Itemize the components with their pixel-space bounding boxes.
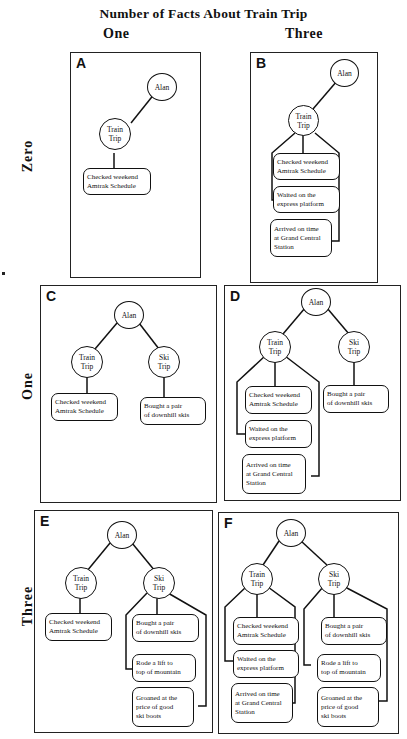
node-ski-trip: Ski Trip <box>318 563 350 595</box>
node-ski-fact-3: Groaned at the price of good ski boots <box>132 687 194 727</box>
column-label-three: Three <box>285 26 323 42</box>
row-label-zero: Zero <box>20 116 36 196</box>
panel-f: F Alan Train Trip Ski Trip Checked weeke… <box>218 512 399 734</box>
node-train-fact-1: Checked weekend Amtrak Schedule <box>45 613 112 641</box>
node-train-trip: Train Trip <box>99 118 131 150</box>
node-train-trip: Train Trip <box>241 563 273 595</box>
node-alan: Alan <box>107 521 137 549</box>
node-alan: Alan <box>147 73 177 101</box>
node-alan: Alan <box>301 288 331 316</box>
node-ski-trip: Ski Trip <box>148 346 180 378</box>
node-train-fact-1: Checked weekend Amtrak Schedule <box>245 386 312 414</box>
figure-title: Number of Facts About Train Trip <box>0 6 407 22</box>
node-ski-trip: Ski Trip <box>338 331 370 363</box>
node-ski-trip: Ski Trip <box>143 567 175 599</box>
node-train-trip: Train Trip <box>288 105 319 136</box>
stray-mark <box>2 272 5 275</box>
panel-e: E Alan Train Trip Ski Trip Checked weeke… <box>34 510 213 733</box>
node-train-trip: Train Trip <box>259 331 291 363</box>
node-ski-fact-3: Groaned at the price of good ski boots <box>317 687 379 727</box>
row-label-one: One <box>20 346 36 426</box>
node-train-fact-1: Checked weekend Amtrak Schedule <box>83 168 151 195</box>
node-train-fact-2: Waited on the express platform <box>273 186 340 213</box>
node-ski-fact-1: Bought a pair of downhill skis <box>321 617 387 645</box>
node-train-fact-3: Arrived on time at Grand Central Station <box>242 454 306 494</box>
node-alan: Alan <box>330 59 359 87</box>
node-ski-fact-1: Bought a pair of downhill skis <box>140 397 206 425</box>
node-train-fact-1: Checked weekend Amtrak Schedule <box>233 617 299 645</box>
panel-a: A Alan Train Trip Checked weekend Amtrak… <box>70 52 201 278</box>
node-train-trip: Train Trip <box>65 567 97 599</box>
panel-c: C Alan Train Trip Ski Trip Checked weeke… <box>40 285 217 503</box>
node-train-fact-1: Checked weekend Amtrak Schedule <box>51 393 118 421</box>
node-train-trip: Train Trip <box>71 346 103 378</box>
node-train-fact-1: Checked weekend Amtrak Schedule <box>273 153 340 180</box>
node-ski-fact-2: Rode a lift to top of mountain <box>317 654 381 682</box>
column-label-one: One <box>103 26 129 42</box>
node-alan: Alan <box>114 301 144 329</box>
node-ski-fact-1: Bought a pair of downhill skis <box>323 385 389 413</box>
node-train-fact-3: Arrived on time at Grand Central Station <box>231 683 293 723</box>
node-ski-fact-2: Rode a lift to top of mountain <box>132 654 196 682</box>
node-train-fact-3: Arrived on time at Grand Central Station <box>270 219 332 257</box>
panel-d: D Alan Train Trip Ski Trip Checked weeke… <box>224 285 401 501</box>
panel-b: B Alan Train Trip Checked weekend Amtrak… <box>250 52 378 283</box>
node-alan: Alan <box>276 519 306 547</box>
node-ski-fact-1: Bought a pair of downhill skis <box>132 614 199 642</box>
node-train-fact-2: Waited on the express platform <box>245 420 312 448</box>
connector-lines <box>71 53 202 279</box>
node-train-fact-2: Waited on the express platform <box>233 650 299 678</box>
